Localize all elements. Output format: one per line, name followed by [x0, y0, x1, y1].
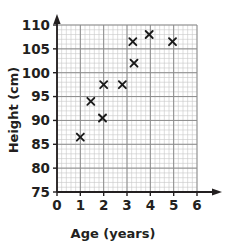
x-tick-label: 0 [52, 197, 61, 213]
x-axis-title: Age (years) [71, 226, 156, 241]
x-tick-label: 5 [169, 197, 178, 213]
data-points [77, 31, 176, 141]
y-tick-label: 100 [22, 65, 50, 81]
scatter-plot-chart: 0123456 7580859095100105110 Age (years) … [0, 0, 227, 244]
y-tick-label: 80 [31, 160, 50, 176]
x-tick-label: 6 [192, 197, 201, 213]
y-tick-label: 75 [31, 184, 50, 200]
x-tick-label: 1 [76, 197, 85, 213]
x-axis-tick-labels: 0123456 [52, 197, 201, 213]
axis-ticks [53, 25, 197, 196]
y-tick-label: 105 [22, 41, 50, 57]
y-axis-tick-labels: 7580859095100105110 [22, 17, 50, 200]
x-tick-label: 4 [146, 197, 155, 213]
grid-major [57, 25, 197, 192]
y-tick-label: 110 [22, 17, 50, 33]
y-tick-label: 95 [31, 88, 50, 104]
x-tick-label: 2 [99, 197, 108, 213]
x-tick-label: 3 [122, 197, 131, 213]
y-tick-label: 90 [31, 112, 50, 128]
y-tick-label: 85 [31, 136, 50, 152]
y-axis-title: Height (cm) [6, 67, 21, 154]
chart-canvas: 0123456 7580859095100105110 Age (years) … [0, 0, 227, 244]
